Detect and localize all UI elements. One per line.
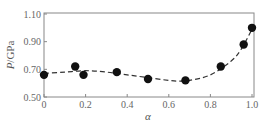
x-tick-label: 0.4 [121, 99, 134, 110]
y-tick-label: 0.50 [24, 92, 42, 103]
fit-curve [44, 29, 252, 81]
chart: 00.20.40.60.81.0 0.500.700.901.10 α P/GP… [0, 0, 265, 124]
data-point [113, 68, 121, 76]
data-point [79, 71, 87, 79]
data-point [217, 62, 225, 70]
x-tick-label: 0 [42, 99, 47, 110]
x-tick-label: 0.2 [79, 99, 92, 110]
data-point [248, 24, 256, 32]
plot-frame [44, 13, 254, 97]
data-point [144, 75, 152, 83]
y-tick-label: 0.70 [24, 64, 42, 75]
data-point [181, 76, 189, 84]
x-tick-label: 0.8 [204, 99, 217, 110]
y-tick-label: 0.90 [24, 36, 42, 47]
y-axis-ticks: 0.500.700.901.10 [24, 9, 48, 103]
data-point [239, 40, 247, 48]
x-tick-label: 0.6 [163, 99, 176, 110]
data-point [71, 62, 79, 70]
x-axis-label: α [145, 110, 151, 122]
data-markers [40, 24, 256, 85]
y-axis-label: P/GPa [4, 41, 16, 71]
x-axis-ticks: 00.20.40.60.81.0 [42, 94, 259, 110]
data-point [40, 71, 48, 79]
y-tick-label: 1.10 [24, 9, 42, 20]
x-tick-label: 1.0 [246, 99, 259, 110]
